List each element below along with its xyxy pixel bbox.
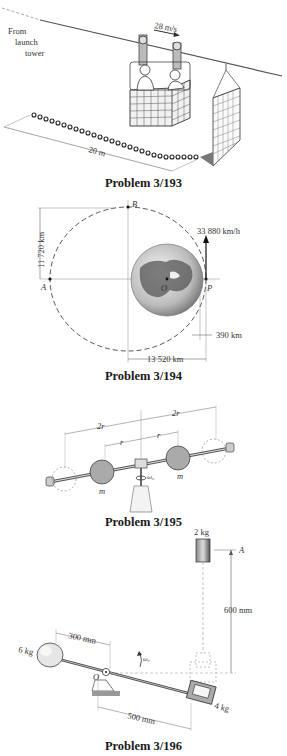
mass-2kg-label: 2 kg xyxy=(194,527,210,537)
orbit-diagram: 11 720 km B A O P 33 880 km/h 390 km 13 … xyxy=(0,190,287,370)
point-b-label: B xyxy=(132,199,137,209)
point-a-label: A xyxy=(238,545,245,555)
chain-length-label: 20 m xyxy=(87,144,107,158)
mass-2kg xyxy=(196,539,210,562)
velocity-label: 33 880 km/h xyxy=(197,226,241,236)
cable-car-diagram: From launch tower 28 m/s 20 m xyxy=(0,0,287,175)
from-launch-tower-label: From xyxy=(8,26,27,36)
figure-problem-3-195: 2r 2r r r m m ω₀ Problem 3/195 xyxy=(0,390,287,530)
pivot-o-label: O xyxy=(93,672,99,682)
mass-left xyxy=(90,460,114,484)
mass-4kg xyxy=(186,680,216,704)
mass-right xyxy=(166,446,190,470)
altitude-label: 390 km xyxy=(216,330,242,340)
outer-left-dim: 2r xyxy=(97,421,105,431)
caption: Problem 3/196 xyxy=(0,739,287,754)
left-arm-dim-label: 300 mm xyxy=(68,630,98,646)
mass-6kg-label: 6 kg xyxy=(18,644,35,657)
horizontal-dimension-label: 13 520 km xyxy=(147,354,184,364)
caption: Problem 3/193 xyxy=(0,176,287,191)
mass-right-label: m xyxy=(177,471,183,481)
omega-label: ω₀ xyxy=(143,655,150,662)
outer-right-dim: 2r xyxy=(172,408,180,418)
gondola-basket xyxy=(130,62,190,126)
point-p-label: P xyxy=(206,283,212,293)
mass-4kg-label: 4 kg xyxy=(213,700,231,714)
inner-right-dim: r xyxy=(157,430,161,440)
point-o-label: O xyxy=(161,283,167,293)
speed-label: 28 m/s xyxy=(154,20,178,34)
height-dim-label: 600 mm xyxy=(224,605,252,615)
rotating-rod-diagram: 2r 2r r r m m ω₀ xyxy=(0,390,287,515)
figure-problem-3-196: 2 kg A 600 mm 300 mm 6 kg O ω₀ 500 mm 4 … xyxy=(0,525,287,756)
figure-problem-3-193: From launch tower 28 m/s 20 m Problem 3/… xyxy=(0,0,287,190)
lever-diagram: 2 kg A 600 mm 300 mm 6 kg O ω₀ 500 mm 4 … xyxy=(0,525,287,737)
mass-6kg xyxy=(37,643,63,667)
figure-problem-3-194: 11 720 km B A O P 33 880 km/h 390 km 13 … xyxy=(0,190,287,390)
svg-text:tower: tower xyxy=(25,48,45,58)
svg-text:launch: launch xyxy=(15,37,38,47)
vertical-dimension-label: 11 720 km xyxy=(36,232,46,268)
inner-left-dim: r xyxy=(120,437,124,447)
omega-label: ω₀ xyxy=(147,473,155,481)
right-arm-dim-label: 500 mm xyxy=(127,710,157,726)
arresting-net xyxy=(200,64,240,166)
point-a-label: A xyxy=(40,282,47,292)
mass-left-label: m xyxy=(99,486,105,496)
caption: Problem 3/194 xyxy=(0,369,287,384)
